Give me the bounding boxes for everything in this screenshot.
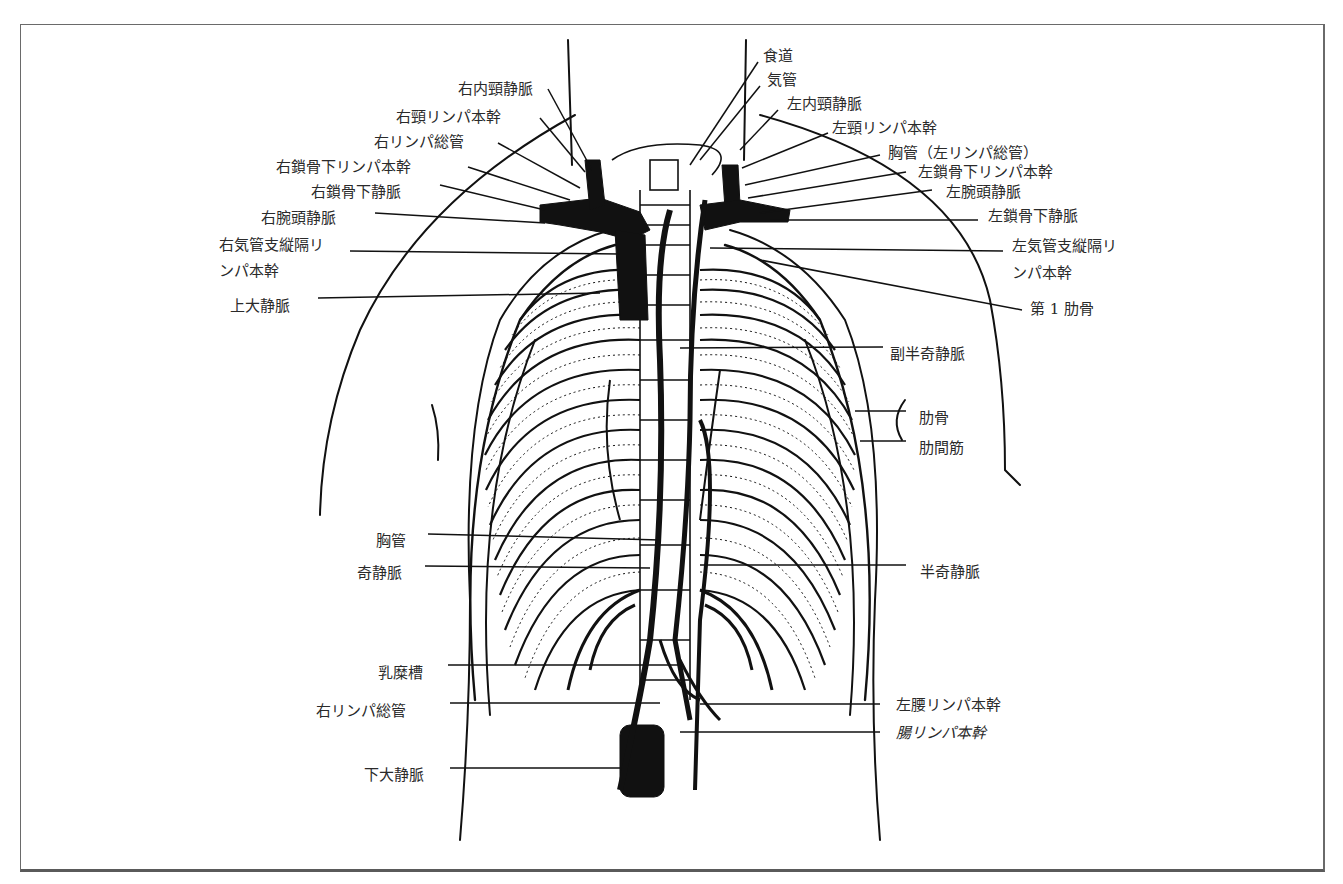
leader-line-r-subclavian-vein [440, 185, 545, 210]
label-svc: 上大静脈 [230, 297, 290, 315]
label-r-bronchomediastinal: 右気管支縦隔リ [219, 236, 324, 254]
label-trachea: 気管 [767, 71, 797, 89]
label-cisterna-chyli: 乳糜槽 [378, 664, 423, 682]
leader-line-accessory-hemiazygos [680, 347, 883, 348]
label-accessory-hemiazygos: 副半奇静脈 [890, 345, 965, 363]
label-esophagus: 食道 [763, 47, 793, 65]
label-r-brachiocephalic: 右腕頭静脈 [261, 209, 336, 227]
label-intercostal: 肋間筋 [919, 439, 964, 457]
leader-line-l-bronchomediastinal [710, 248, 1003, 251]
superior-vena-cava [615, 230, 648, 320]
label-azygos: 奇静脈 [357, 564, 402, 582]
label-hemiazygos: 半奇静脈 [920, 563, 980, 581]
leader-line-trachea [700, 86, 760, 160]
label-r-lymph-duct-lower: 右リンパ総管 [316, 702, 406, 720]
label-l-brachiocephalic: 左腕頭静脈 [946, 183, 1021, 201]
leader-line-thoracic-duct-upper [745, 155, 880, 185]
label-r-bronchomediastinal-2: ンパ本幹 [219, 262, 279, 280]
label-rib: 肋骨 [919, 409, 949, 427]
leader-lines [318, 62, 1022, 768]
leader-line-azygos [425, 566, 650, 568]
leader-line-esophagus [690, 62, 758, 165]
label-r-lymph-duct: 右リンパ総管 [374, 133, 464, 151]
label-l-subclavian-trunk: 左鎖骨下リンパ本幹 [918, 163, 1053, 181]
label-l-bronchomediastinal: 左気管支縦隔リ [1012, 237, 1117, 255]
leader-line-l-jugular-trunk [742, 133, 828, 168]
leader-line-l-subclavian-trunk [748, 172, 906, 198]
label-first-rib: 第 1 肋骨 [1030, 300, 1094, 318]
leader-line-r-bronchomediastinal [350, 251, 620, 254]
neck-outline-right [744, 40, 746, 160]
leader-line-svc [318, 293, 600, 298]
ribs-left [485, 270, 640, 690]
leader-line-l-brachiocephalic [760, 190, 932, 213]
label-r-int-jugular: 右内頸静脈 [458, 80, 533, 98]
label-l-lumbar-trunk: 左腰リンパ本幹 [896, 696, 1001, 714]
label-l-int-jugular: 左内頸静脈 [787, 95, 862, 113]
label-l-bronchomediastinal-2: ンパ本幹 [1012, 264, 1072, 282]
label-thoracic-duct: 胸管 [376, 532, 406, 550]
ribs-right [700, 270, 855, 690]
label-thoracic-duct-upper: 胸管（左リンパ総管） [888, 144, 1038, 162]
label-r-subclavian-trunk: 右鎖骨下リンパ本幹 [276, 158, 411, 176]
label-ivc: 下大静脈 [364, 766, 424, 784]
label-l-jugular-trunk: 左頸リンパ本幹 [832, 119, 937, 137]
leader-line-first-rib [760, 260, 1022, 310]
anatomy-illustration [0, 0, 1343, 884]
leader-line-r-brachiocephalic [375, 213, 545, 223]
leader-line-thoracic-duct [428, 534, 660, 540]
label-intestinal-trunk: 腸リンパ本幹 [896, 724, 986, 742]
label-r-jugular-trunk: 右頸リンパ本幹 [396, 108, 501, 126]
label-r-subclavian-vein: 右鎖骨下静脈 [311, 183, 401, 201]
neck-outline-left [568, 40, 572, 165]
label-l-subclavian-vein: 左鎖骨下静脈 [988, 207, 1078, 225]
